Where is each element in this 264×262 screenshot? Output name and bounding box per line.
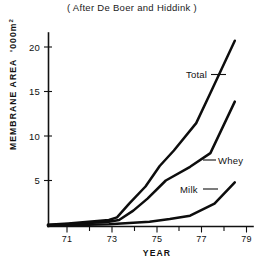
y-tick-label-15: 15	[29, 86, 40, 97]
y-tick-label-20: 20	[29, 42, 40, 53]
y-axis-unit: '000m2	[8, 18, 18, 52]
chart-figure: ( After De Boer and Hiddink ) 20 15 10 5	[0, 0, 264, 262]
x-tick-label-71: 71	[62, 234, 72, 244]
y-axis-title-group: MEMBRANE AREA '000m2	[8, 18, 18, 150]
x-tick-label-77: 77	[196, 234, 206, 244]
series-label-whey: Whey	[218, 155, 243, 166]
x-tick-label-75: 75	[152, 234, 162, 244]
x-axis-ticks	[67, 227, 247, 233]
series-label-total: Total	[186, 69, 207, 80]
y-axis-unit-exponent: 2	[8, 18, 14, 22]
series-label-milk: Milk	[180, 184, 198, 195]
y-axis-title: MEMBRANE AREA	[8, 59, 18, 150]
line-chart-plot: 20 15 10 5 71 73 75 77 79 YEAR MEMBRANE …	[0, 0, 264, 262]
x-tick-label-79: 79	[241, 234, 251, 244]
series-label-milk-group: Milk	[180, 184, 218, 195]
x-tick-label-73: 73	[107, 234, 117, 244]
y-axis-unit-text: '000m	[8, 22, 18, 52]
y-tick-label-5: 5	[35, 175, 40, 186]
x-axis-title: YEAR	[143, 248, 171, 258]
y-tick-label-10: 10	[29, 131, 40, 142]
series-label-whey-group: Whey	[203, 155, 243, 166]
